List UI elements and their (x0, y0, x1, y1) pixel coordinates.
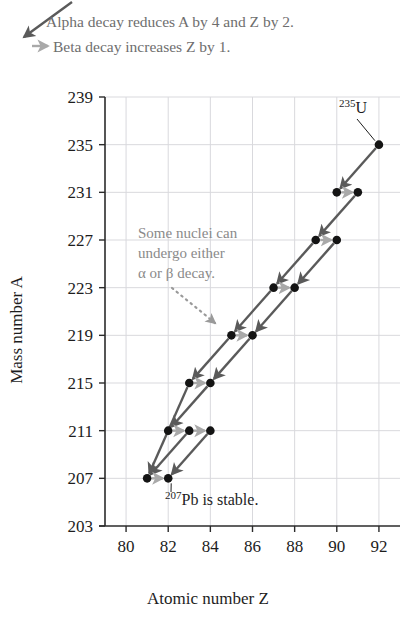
y-axis-title: Mass number A (7, 275, 26, 383)
pb207-symbol: Pb (182, 491, 199, 508)
u235-symbol: U (356, 99, 368, 116)
nuclide-point (248, 331, 257, 340)
nuclide-point (269, 283, 278, 292)
annotation-line-1: Some nuclei can (138, 225, 238, 241)
y-tick-label: 239 (68, 88, 94, 107)
x-tick-label: 84 (202, 537, 220, 556)
alpha-decay-arrow (172, 434, 208, 474)
callout-pb207: 207Pb is stable. (165, 483, 258, 508)
x-tick-label: 90 (328, 537, 345, 556)
alpha-decay-arrow (172, 386, 208, 426)
nuclide-point (290, 283, 299, 292)
x-tick-label: 86 (244, 537, 261, 556)
x-axis-title: Atomic number Z (147, 589, 269, 608)
nuclide-point (164, 474, 173, 483)
nuclide-point (311, 236, 320, 245)
nuclide-point (206, 426, 215, 435)
decay-series-figure: Alpha decay reduces A by 4 and Z by 2. B… (0, 0, 417, 636)
plot-area: 203207211215219223227231235239 808284868… (68, 88, 401, 556)
nuclide-point (185, 426, 194, 435)
y-axis-ticks: 203207211215219223227231235239 (68, 88, 106, 536)
y-tick-label: 203 (68, 517, 94, 536)
y-tick-label: 219 (68, 326, 94, 345)
nuclide-point (354, 188, 363, 197)
pb207-label: 207Pb is stable. (165, 489, 258, 508)
legend-alpha-label: Alpha decay reduces A by 4 and Z by 2. (46, 13, 294, 30)
x-axis-ticks: 80828486889092 (118, 526, 388, 556)
x-tick-label: 92 (370, 537, 387, 556)
legend: Alpha decay reduces A by 4 and Z by 2. B… (24, 2, 294, 55)
legend-item-alpha: Alpha decay reduces A by 4 and Z by 2. (24, 2, 294, 37)
x-tick-label: 80 (118, 537, 135, 556)
legend-item-beta: Beta decay increases Z by 1. (32, 38, 230, 55)
callout-u235: 235U (339, 97, 375, 141)
alpha-decay-arrow (298, 243, 334, 283)
y-tick-label: 227 (68, 231, 94, 250)
nuclide-point (143, 474, 152, 483)
pb207-suffix: is stable. (198, 491, 258, 508)
annotation-line-2: undergo either (138, 245, 225, 261)
nuclide-point (375, 140, 384, 149)
nuclide-point (227, 331, 236, 340)
decay-transitions (149, 148, 376, 478)
nuclide-point (185, 379, 194, 388)
y-tick-label: 207 (68, 469, 94, 488)
nuclide-point (206, 379, 215, 388)
y-tick-label: 215 (68, 374, 94, 393)
pb207-superscript: 207 (165, 489, 182, 501)
u235-superscript: 235 (339, 97, 356, 109)
u235-label: 235U (339, 97, 368, 116)
nuclide-point (164, 426, 173, 435)
annotation-leader-arrow-icon (172, 288, 215, 323)
x-tick-label: 82 (160, 537, 177, 556)
alpha-decay-arrow (340, 148, 376, 188)
annotation-line-3: α or β decay. (138, 265, 215, 281)
legend-beta-label: Beta decay increases Z by 1. (53, 38, 230, 55)
alpha-decay-arrow (214, 339, 250, 379)
u235-leader-line (357, 119, 375, 141)
y-tick-label: 235 (68, 136, 94, 155)
nuclide-point (332, 236, 341, 245)
alpha-decay-arrow (256, 291, 292, 331)
annotation-either-decay: Some nuclei can undergo either α or β de… (138, 225, 238, 323)
nuclide-point (332, 188, 341, 197)
y-tick-label: 223 (68, 279, 94, 298)
y-tick-label: 211 (68, 422, 93, 441)
y-tick-label: 231 (68, 183, 94, 202)
x-tick-label: 88 (286, 537, 303, 556)
